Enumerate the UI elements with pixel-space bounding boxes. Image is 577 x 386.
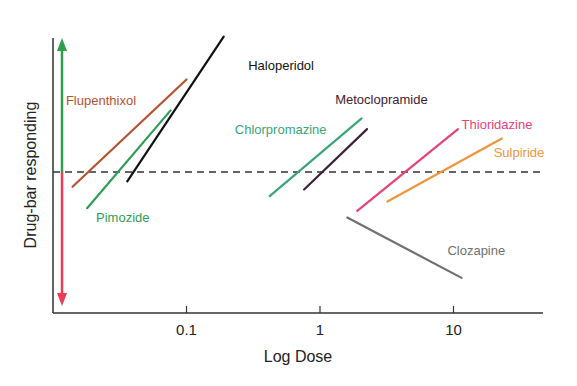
series-line-haloperidol — [127, 37, 223, 182]
series-label-sulpiride: Sulpiride — [494, 145, 545, 160]
x-ticks: 0.1110 — [176, 306, 462, 338]
x-tick-label: 1 — [316, 321, 324, 338]
series-label-haloperidol: Haloperidol — [248, 58, 314, 73]
axes — [53, 38, 543, 313]
series-label-thioridazine: Thioridazine — [462, 117, 533, 132]
series-label-clozapine: Clozapine — [447, 243, 505, 258]
x-axis-title: Log Dose — [264, 348, 333, 365]
x-tick-label: 0.1 — [176, 321, 197, 338]
series-label-metoclopramide: Metoclopramide — [335, 92, 428, 107]
chart: 0.1110 FlupenthixolPimozideHaloperidolCh… — [0, 0, 577, 386]
series-labels: FlupenthixolPimozideHaloperidolChlorprom… — [66, 58, 544, 258]
y-axis-title: Drug-bar responding — [22, 102, 39, 249]
series-label-pimozide: Pimozide — [96, 210, 149, 225]
up-arrow-head-icon — [57, 38, 67, 51]
x-tick-label: 10 — [445, 321, 462, 338]
series-line-sulpiride — [387, 139, 501, 202]
series-label-chlorpromazine: Chlorpromazine — [235, 122, 327, 137]
series-label-flupenthixol: Flupenthixol — [66, 93, 136, 108]
series-line-pimozide — [87, 110, 171, 208]
down-arrow-head-icon — [57, 293, 67, 306]
series-line-clozapine — [347, 218, 461, 278]
